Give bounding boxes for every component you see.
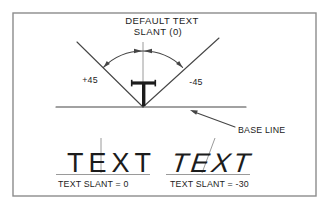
sample-30-caption: TEXT SLANT = -30 xyxy=(170,179,249,189)
default-slant-title-line2: SLANT (0) xyxy=(134,26,182,37)
text-slant-diagram: DEFAULT TEXT SLANT (0) +45 -45 BASE LIN xyxy=(0,0,326,208)
letter-T-glyph xyxy=(131,80,156,106)
sample-30-text: TEXT xyxy=(167,148,255,178)
baseline-leader-line xyxy=(193,112,235,128)
angle-left-label: +45 xyxy=(82,75,98,85)
minus45-slant-line xyxy=(143,38,219,107)
sample-0-caption: TEXT SLANT = 0 xyxy=(58,179,129,189)
sample-slant-0: TEXT TEXT SLANT = 0 xyxy=(56,138,151,189)
diagram-border xyxy=(13,13,316,196)
sample-slant-minus30: TEXT TEXT SLANT = -30 xyxy=(166,138,255,189)
baseline-label: BASE LINE xyxy=(238,125,285,135)
baseline-leader-arrowhead-icon xyxy=(190,110,198,115)
default-slant-title-line1: DEFAULT TEXT xyxy=(125,15,198,26)
angle-right-label: -45 xyxy=(189,77,202,87)
figure-canvas: DEFAULT TEXT SLANT (0) +45 -45 BASE LIN xyxy=(0,0,326,208)
center-arrowhead-right-icon xyxy=(144,49,152,54)
sample-0-text: TEXT xyxy=(67,148,151,178)
center-arrowhead-left-icon xyxy=(134,49,142,54)
